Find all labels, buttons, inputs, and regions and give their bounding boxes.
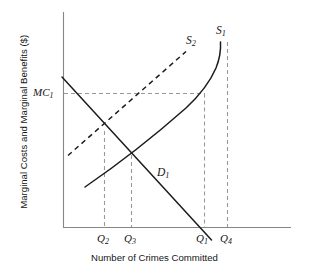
- mc1-label-sub: 1: [50, 91, 54, 100]
- q4-label-sub: 4: [228, 237, 232, 246]
- d1-curve-label: D1: [157, 167, 169, 180]
- mc1-label-base: MC: [33, 86, 50, 98]
- x-tick-label-q3: Q3: [124, 233, 136, 246]
- q2-label-sub: 2: [105, 237, 109, 246]
- chart-plot-area: [0, 0, 309, 280]
- s2-label-sub: 2: [192, 39, 196, 48]
- demand-curve-d1: [62, 77, 212, 240]
- x-tick-label-q2: Q2: [97, 233, 109, 246]
- s1-label-sub: 1: [222, 29, 226, 38]
- d1-label-sub: 1: [165, 171, 169, 180]
- q1-label-base: Q: [196, 232, 204, 244]
- x-tick-label-q1: Q1: [196, 233, 208, 246]
- q3-label-sub: 3: [132, 237, 136, 246]
- s1-curve-label: S1: [216, 25, 226, 38]
- q1-label-sub: 1: [204, 237, 208, 246]
- y-axis-title: Marginal Costs and Marginal Benefits ($): [19, 12, 29, 232]
- q4-label-base: Q: [220, 232, 228, 244]
- q3-label-base: Q: [124, 232, 132, 244]
- mc1-axis-label: MC1: [33, 87, 53, 100]
- s2-curve-label: S2: [186, 35, 196, 48]
- economics-supply-demand-chart: Marginal Costs and Marginal Benefits ($)…: [0, 0, 309, 280]
- x-tick-label-q4: Q4: [220, 233, 232, 246]
- q2-label-base: Q: [97, 232, 105, 244]
- x-axis-title: Number of Crimes Committed: [0, 253, 309, 263]
- supply-curve-s1: [85, 42, 221, 187]
